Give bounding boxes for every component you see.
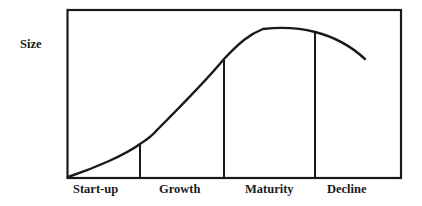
stage-label-startup: Start-up: [73, 182, 118, 196]
stage-label-maturity: Maturity: [245, 182, 294, 196]
y-axis-label: Size: [20, 37, 42, 51]
lifecycle-diagram: Size Start-up Growth Maturity Decline: [0, 0, 422, 206]
stage-label-growth: Growth: [159, 182, 200, 196]
chart-frame: [68, 10, 402, 178]
lifecycle-curve: [68, 28, 365, 177]
stage-label-decline: Decline: [327, 182, 367, 196]
